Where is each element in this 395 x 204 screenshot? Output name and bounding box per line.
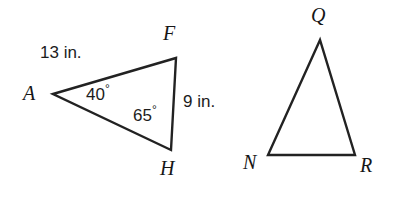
- vertex-label-r: R: [360, 155, 372, 175]
- side-length-label-fh: 9 in.: [183, 93, 215, 110]
- triangle-AFH-outline: [53, 58, 176, 150]
- triangle-QNR-outline: [268, 40, 355, 155]
- angle-label-a: 40°: [86, 86, 110, 103]
- angle-label-h: 65°: [133, 107, 157, 124]
- vertex-label-q: Q: [311, 5, 325, 25]
- angle-value-a: 40: [86, 85, 105, 104]
- degree-sign-a: °: [105, 82, 110, 96]
- side-length-label-af: 13 in.: [40, 44, 82, 61]
- angle-value-h: 65: [133, 106, 152, 125]
- degree-sign-h: °: [152, 103, 157, 117]
- vertex-label-a: A: [23, 83, 35, 103]
- vertex-label-h: H: [160, 158, 174, 178]
- geometry-figure-canvas: A F H 13 in. 9 in. 40° 65° Q N R: [0, 0, 395, 204]
- vertex-label-f: F: [163, 23, 175, 43]
- vertex-label-n: N: [243, 152, 256, 172]
